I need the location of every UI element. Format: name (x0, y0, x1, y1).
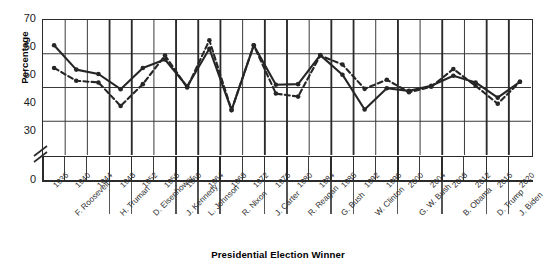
y-tick-30: 30 (12, 125, 36, 136)
y-axis-tick-labels: 70 60 50 40 30 0 (10, 0, 36, 269)
x-axis-line (42, 180, 533, 182)
x-axis-title: Presidential Election Winner (0, 249, 556, 260)
plot-svg (43, 20, 531, 155)
y-tick-50: 50 (12, 69, 36, 80)
y-tick-70: 70 (12, 13, 36, 24)
y-tick-60: 60 (12, 41, 36, 52)
plot-area (42, 19, 533, 157)
y-tick-40: 40 (12, 97, 36, 108)
chart-container: Percentage 70 60 50 40 30 0 193619401944… (0, 0, 556, 269)
y-tick-0: 0 (12, 174, 36, 185)
